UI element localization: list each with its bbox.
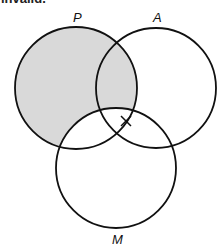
label-a: A [152,10,162,25]
venn-diagram: P A M [0,0,223,249]
label-p: P [73,10,82,25]
label-m: M [112,232,123,247]
